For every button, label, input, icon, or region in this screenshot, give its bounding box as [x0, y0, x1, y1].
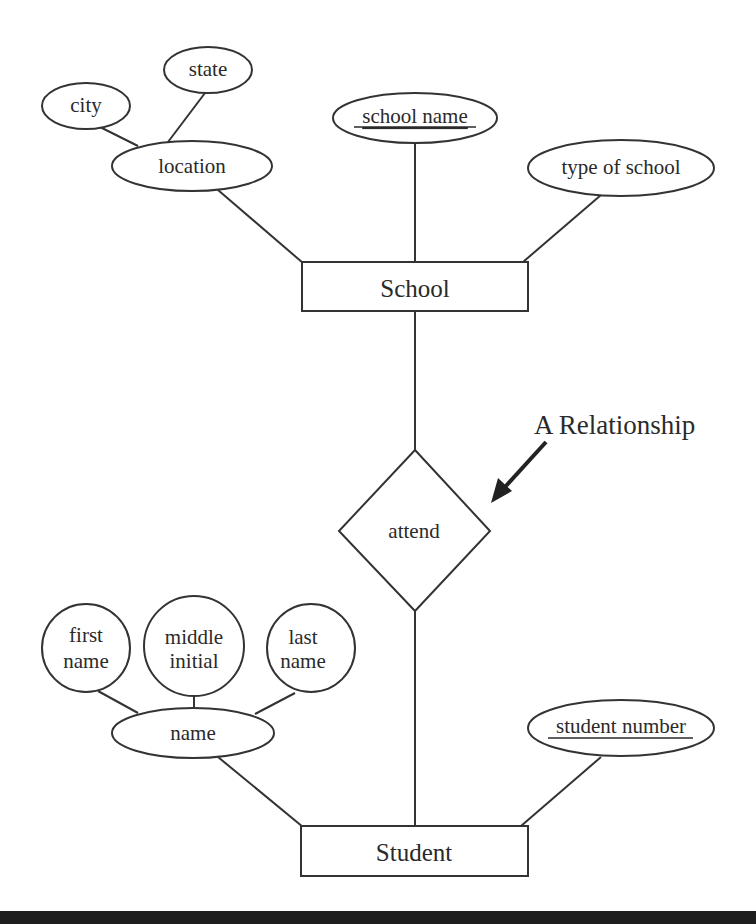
attribute-middle-initial-line1: middle	[165, 625, 223, 649]
connector-city-location	[98, 126, 138, 146]
entity-student[interactable]: Student	[301, 826, 528, 876]
attribute-type-of-school[interactable]: type of school	[528, 140, 714, 196]
attribute-name-label: name	[170, 721, 215, 745]
connector-name-student	[218, 757, 303, 827]
bottom-rule	[0, 911, 756, 924]
attribute-school-name-label: school name	[362, 104, 468, 128]
attribute-location-label: location	[158, 154, 226, 178]
attribute-last-name-line2: name	[280, 649, 325, 673]
annotation-label: A Relationship	[534, 410, 695, 440]
attribute-type-of-school-label: type of school	[562, 155, 681, 179]
attribute-middle-initial-line2: initial	[170, 649, 219, 673]
attribute-last-name-line1: last	[288, 625, 317, 649]
attribute-first-name-line1: first	[69, 623, 103, 647]
attribute-name[interactable]: name	[112, 708, 274, 758]
attribute-school-name[interactable]: school name	[333, 93, 497, 143]
annotation: A Relationship	[491, 410, 695, 503]
connector-type-school	[523, 195, 601, 262]
attribute-last-name[interactable]: last name	[267, 604, 355, 692]
entity-school[interactable]: School	[302, 262, 528, 311]
attribute-student-number[interactable]: student number	[528, 700, 714, 756]
attribute-first-name[interactable]: first name	[42, 604, 130, 692]
attribute-city[interactable]: city	[42, 83, 130, 129]
relationship-attend-label: attend	[388, 519, 440, 543]
attribute-city-label: city	[70, 93, 102, 117]
connector-studentnumber-student	[521, 757, 601, 826]
er-diagram: city state location school name type of …	[0, 0, 756, 924]
arrow-icon	[491, 442, 546, 503]
connector-firstname-name	[98, 691, 138, 713]
entity-student-label: Student	[376, 839, 452, 866]
entity-school-label: School	[380, 275, 450, 302]
connector-state-location	[168, 93, 205, 142]
attribute-middle-initial[interactable]: middle initial	[144, 596, 244, 696]
connector-location-school	[218, 190, 303, 263]
attribute-state[interactable]: state	[164, 47, 252, 93]
attribute-first-name-line2: name	[63, 649, 108, 673]
attribute-state-label: state	[189, 57, 227, 81]
attribute-location[interactable]: location	[112, 141, 272, 191]
relationship-attend[interactable]: attend	[339, 450, 490, 611]
connector-lastname-name	[255, 693, 295, 714]
attribute-student-number-label: student number	[556, 714, 686, 738]
